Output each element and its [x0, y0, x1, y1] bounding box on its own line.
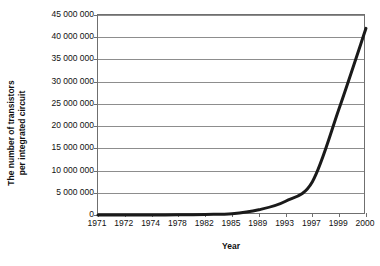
y-tick-label: 40 000 000 [34, 32, 94, 41]
y-tick-label: 20 000 000 [34, 121, 94, 130]
y-tick-label: 5 000 000 [34, 187, 94, 196]
x-tick-label: 2000 [345, 218, 380, 228]
y-tick-label: 35 000 000 [34, 54, 94, 63]
x-tick-mark [366, 213, 367, 217]
y-axis-title-line2: per integrated circuit [17, 80, 28, 185]
y-tick-label: 45 000 000 [34, 10, 94, 19]
y-tick-label: 30 000 000 [34, 76, 94, 85]
y-tick-label: 10 000 000 [34, 165, 94, 174]
y-tick-label: 15 000 000 [34, 143, 94, 152]
series-path [98, 28, 366, 215]
y-axis-title-line1: The number of transistors [6, 80, 17, 185]
plot-area [97, 14, 365, 214]
data-series-line [98, 15, 366, 215]
chart-container: The number of transistors per integrated… [0, 0, 380, 266]
y-axis-title: The number of transistors per integrated… [0, 0, 34, 266]
y-tick-label: 25 000 000 [34, 98, 94, 107]
x-axis-title: Year [97, 241, 365, 251]
